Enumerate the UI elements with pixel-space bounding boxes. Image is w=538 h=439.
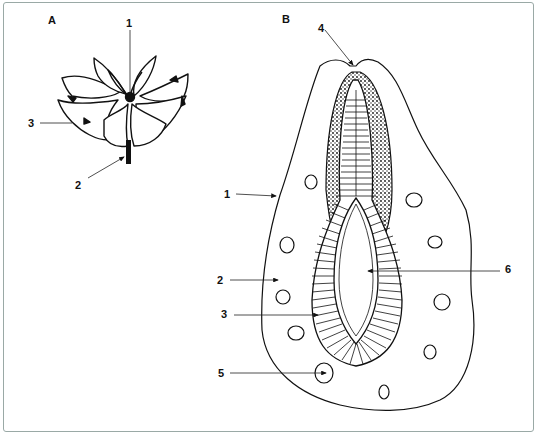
panel-a-callout-1: 1 [126, 18, 132, 29]
panel-b-callout-3: 3 [221, 309, 227, 320]
flower-drawing [58, 56, 188, 164]
diagram-canvas [0, 0, 538, 439]
panel-b-callout-1: 1 [224, 189, 230, 200]
panel-b-callout-2: 2 [217, 275, 223, 286]
panel-a-callout-3: 3 [28, 118, 34, 129]
panel-b-callout-6: 6 [505, 264, 511, 275]
panel-b-callout-5: 5 [218, 368, 224, 379]
panel-a-callout-2: 2 [75, 180, 81, 191]
panel-b-callout-4: 4 [318, 23, 324, 34]
panel-a-label: A [48, 15, 56, 26]
panel-b-label: B [282, 14, 290, 25]
